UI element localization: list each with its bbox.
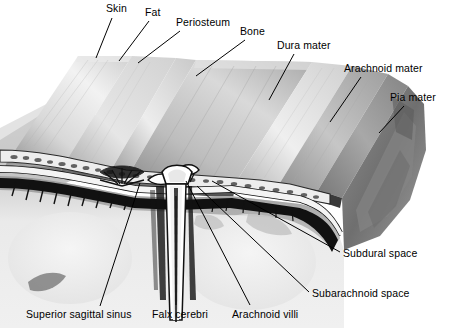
label-bone: Bone — [240, 26, 265, 37]
label-arachnoid-villi: Arachnoid villi — [232, 309, 298, 320]
label-subarachnoid-space: Subarachnoid space — [312, 288, 410, 299]
label-superior-sagittal-sinus: Superior sagittal sinus — [26, 309, 132, 320]
label-falx-cerebri: Falx cerebri — [152, 309, 208, 320]
label-dura-mater: Dura mater — [277, 40, 331, 51]
label-periosteum: Periosteum — [176, 17, 230, 28]
label-arachnoid-mater: Arachnoid mater — [344, 63, 423, 74]
label-pia-mater: Pia mater — [390, 92, 436, 103]
label-fat: Fat — [145, 7, 160, 18]
label-subdural-space: Subdural space — [343, 248, 417, 259]
leader-fat — [119, 21, 149, 61]
superior-sagittal-sinus-structure — [162, 165, 192, 184]
meninges-illustration — [0, 0, 449, 328]
meninges-figure: SkinFatPeriosteumBoneDura materArachnoid… — [0, 0, 449, 328]
label-skin: Skin — [106, 3, 127, 14]
leader-skin — [96, 18, 112, 58]
